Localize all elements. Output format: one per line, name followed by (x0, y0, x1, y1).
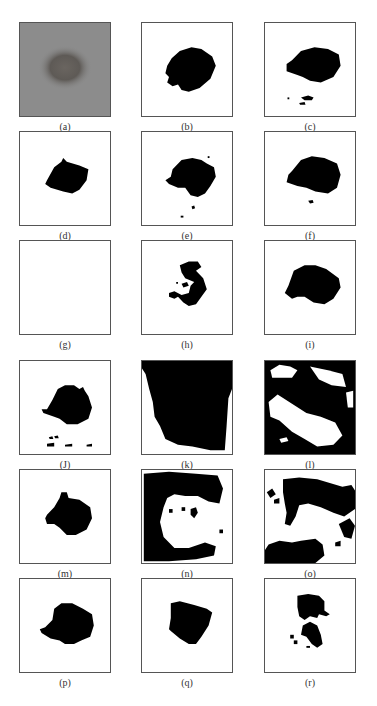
segmentation-mask (142, 361, 232, 454)
panel-q (141, 578, 233, 673)
panel-c (264, 22, 356, 117)
panel-label-i: (i) (264, 339, 356, 351)
segmentation-mask (265, 132, 355, 225)
panel-b (141, 22, 233, 117)
panel-n (141, 469, 233, 564)
panel-label-r: (r) (264, 677, 356, 689)
panel-label-h: (h) (141, 339, 233, 351)
panel-label-q: (q) (141, 677, 233, 689)
panel-f (264, 131, 356, 226)
panel-l (264, 360, 356, 455)
dermoscopy-image (20, 23, 110, 116)
segmentation-mask (20, 361, 110, 454)
segmentation-mask (142, 241, 232, 334)
segmentation-mask (20, 132, 110, 225)
segmentation-mask (265, 23, 355, 116)
panel-g (19, 240, 111, 335)
segmentation-mask (265, 241, 355, 334)
segmentation-mask (20, 470, 110, 563)
panel-p (19, 578, 111, 673)
panel-label-g: (g) (19, 339, 111, 351)
panel-r (264, 578, 356, 673)
lesion (38, 45, 92, 90)
segmentation-mask (142, 579, 232, 672)
segmentation-mask (142, 23, 232, 116)
segmentation-mask (265, 579, 355, 672)
panel-d (19, 131, 111, 226)
panel-m (19, 469, 111, 564)
panel-h (141, 240, 233, 335)
segmentation-mask (20, 579, 110, 672)
panel-j (19, 360, 111, 455)
panel-a (19, 22, 111, 117)
segmentation-comparison-figure: (a)(b)(c)(d)(e)(f)(g)(h)(i)(J)(k)(l)(m)(… (0, 0, 377, 706)
panel-e (141, 131, 233, 226)
panel-o (264, 469, 356, 564)
segmentation-mask (265, 470, 355, 563)
panel-label-p: (p) (19, 677, 111, 689)
segmentation-mask (20, 241, 110, 334)
panel-i (264, 240, 356, 335)
panel-k (141, 360, 233, 455)
segmentation-mask (142, 132, 232, 225)
segmentation-mask (265, 361, 355, 454)
segmentation-mask (142, 470, 232, 563)
